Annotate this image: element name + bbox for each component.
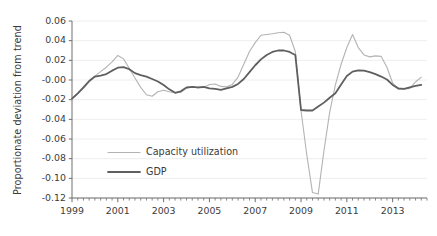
x-tick-label: 2007	[233, 205, 277, 216]
y-tick-label: 0.06	[45, 15, 66, 26]
x-tick-label: 2013	[371, 205, 415, 216]
x-tick-label: 2005	[187, 205, 231, 216]
y-tick-label: -0.00	[42, 74, 66, 85]
x-tick-label: 2011	[325, 205, 369, 216]
y-tick-label: 0.02	[45, 54, 66, 65]
series-line-capacity-utilization	[72, 32, 421, 194]
y-tick-label: -0.08	[42, 152, 66, 163]
x-tick-label: 2001	[96, 205, 140, 216]
legend-label-gdp: GDP	[146, 166, 167, 177]
y-tick-label: -0.12	[42, 192, 66, 203]
y-tick-label: -0.10	[42, 172, 66, 183]
legend-label-capacity-utilization: Capacity utilization	[146, 146, 238, 157]
x-tick-label: 2003	[142, 205, 186, 216]
y-tick-label: -0.02	[42, 93, 66, 104]
y-tick-label: -0.04	[42, 113, 66, 124]
data-series	[72, 32, 421, 194]
chart-figure: Proportionate deviation from trend 0.060…	[0, 0, 437, 236]
x-tick-label: 1999	[50, 205, 94, 216]
x-tick-marks	[72, 198, 427, 202]
x-tick-label: 2009	[279, 205, 323, 216]
y-tick-label: 0.04	[45, 34, 66, 45]
legend-swatches	[108, 153, 140, 173]
y-axis-title: Proportionate deviation from trend	[12, 25, 23, 195]
y-tick-label: -0.06	[42, 133, 66, 144]
